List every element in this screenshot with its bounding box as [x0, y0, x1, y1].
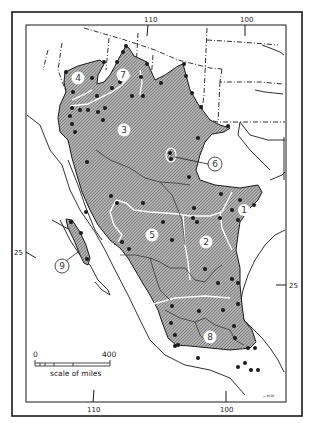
scale-end-label: 400 [102, 350, 117, 359]
author-signature: ᴗ.ᴍ.ᴍ [263, 393, 274, 398]
svg-text:7: 7 [120, 70, 126, 80]
region-label-5: 5 [146, 229, 159, 242]
region-label-1: 1 [238, 204, 250, 216]
longitude-label-bottom-110: 110 [87, 406, 100, 414]
latitude-label-left-25: 25 [14, 249, 23, 257]
region-label-8: 8 [204, 331, 217, 344]
longitude-label-top-100: 100 [240, 16, 253, 24]
region-label-7: 7 [117, 69, 130, 82]
scale-start-label: 0 [33, 350, 38, 359]
svg-text:4: 4 [75, 73, 81, 83]
map-figure: 110 100 110 100 25 25 [0, 0, 312, 423]
svg-text:3: 3 [121, 125, 127, 135]
longitude-label-bottom-100: 100 [220, 406, 233, 414]
latitude-label-right-25: 25 [289, 282, 298, 290]
svg-text:2: 2 [203, 237, 209, 247]
region-label-6: 6 [208, 157, 222, 171]
svg-text:6: 6 [212, 159, 218, 169]
svg-text:1: 1 [241, 205, 247, 215]
region-label-3: 3 [118, 124, 131, 137]
svg-text:8: 8 [207, 332, 213, 342]
svg-text:5: 5 [149, 230, 155, 240]
svg-text:9: 9 [59, 261, 65, 271]
region-label-4: 4 [72, 72, 85, 85]
longitude-label-top-110: 110 [144, 16, 157, 24]
scale-caption: scale of miles [50, 369, 101, 378]
region-label-9: 9 [55, 259, 69, 273]
region-label-2: 2 [200, 236, 213, 249]
